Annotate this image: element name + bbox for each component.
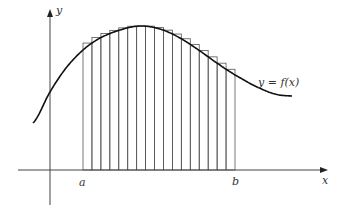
- rectangle: [101, 34, 110, 170]
- rectangle: [83, 43, 92, 170]
- y-axis-arrow-icon: [47, 9, 53, 17]
- y-axis-label: y: [56, 4, 62, 17]
- rectangle: [155, 28, 164, 170]
- b-label: b: [232, 175, 239, 188]
- rectangle: [172, 34, 181, 170]
- rectangle: [181, 39, 190, 170]
- rectangle: [208, 57, 217, 170]
- rectangle: [128, 26, 137, 170]
- plot-canvas: [0, 0, 344, 213]
- rectangle: [119, 28, 128, 170]
- rectangle: [199, 50, 208, 170]
- curve-label: y = f(x): [258, 76, 299, 89]
- rectangle: [137, 26, 146, 170]
- x-axis-label: x: [322, 174, 328, 187]
- rectangles: [83, 26, 235, 170]
- a-label: a: [79, 176, 86, 189]
- rectangle: [92, 38, 101, 170]
- rectangle: [190, 44, 199, 170]
- rectangle: [226, 69, 235, 170]
- rectangle: [163, 30, 172, 170]
- riemann-sum-diagram: y x a b y = f(x): [0, 0, 344, 213]
- rectangle: [217, 63, 226, 170]
- rectangle: [110, 30, 119, 170]
- x-axis-arrow-icon: [320, 167, 328, 173]
- rectangle: [146, 26, 155, 170]
- curve-f-x: [33, 26, 292, 123]
